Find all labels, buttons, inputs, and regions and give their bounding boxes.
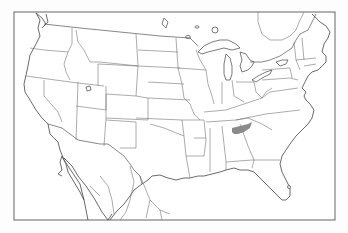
map-frame bbox=[14, 12, 335, 220]
us-base-map bbox=[0, 0, 348, 233]
map-container bbox=[0, 0, 348, 233]
